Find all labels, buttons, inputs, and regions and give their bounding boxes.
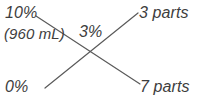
high-strength-parts-label: 3 parts — [139, 5, 189, 21]
high-strength-label: 10% — [5, 5, 37, 21]
alligation-diagram: 10% (960 mL) 0% 3% 3 parts 7 parts — [0, 0, 208, 98]
high-strength-volume-label: (960 mL) — [4, 26, 65, 41]
low-strength-label: 0% — [5, 79, 28, 95]
low-strength-parts-label: 7 parts — [140, 79, 190, 95]
desired-strength-label: 3% — [79, 24, 102, 40]
